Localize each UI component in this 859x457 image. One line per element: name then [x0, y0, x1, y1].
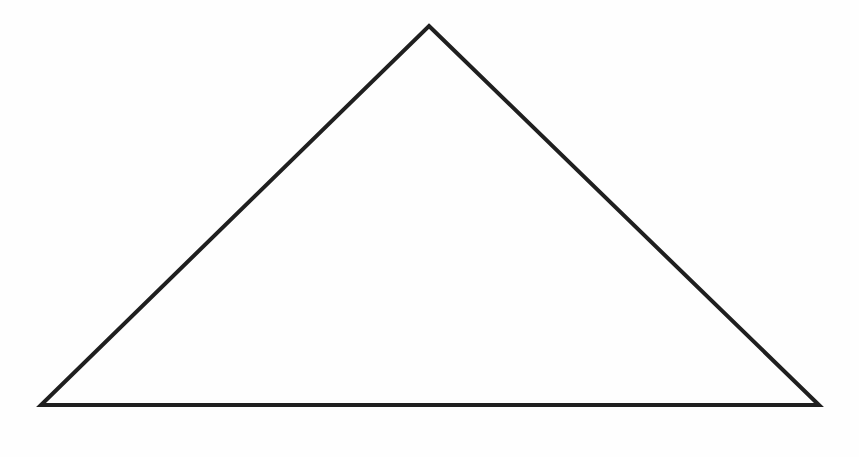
- triangle-figure-svg: [0, 0, 859, 457]
- canvas-background: [0, 0, 859, 457]
- figure-canvas: [0, 0, 859, 457]
